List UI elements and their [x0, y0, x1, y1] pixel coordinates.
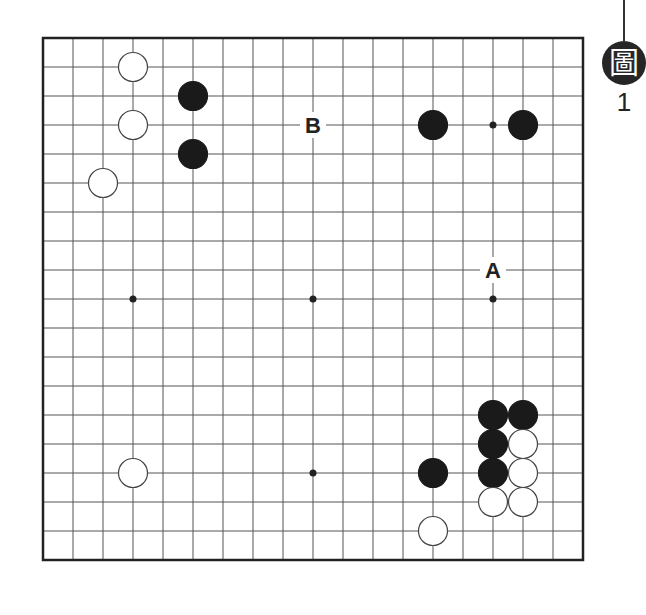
white-stone — [509, 459, 538, 488]
star-point — [310, 296, 317, 303]
black-stone — [179, 82, 208, 111]
white-stone — [119, 53, 148, 82]
black-stone — [509, 401, 538, 430]
white-stone — [509, 488, 538, 517]
white-stone — [479, 488, 508, 517]
white-stone — [509, 430, 538, 459]
star-point — [310, 470, 317, 477]
diagram-number: 1 — [610, 87, 638, 118]
black-stone — [479, 430, 508, 459]
white-stone — [119, 111, 148, 140]
badge-connector-line — [623, 0, 625, 41]
star-point — [490, 296, 497, 303]
point-label-a: A — [485, 258, 501, 283]
white-stone — [419, 517, 448, 546]
star-point — [130, 296, 137, 303]
star-point — [490, 122, 497, 129]
white-stone — [89, 169, 118, 198]
black-stone — [479, 459, 508, 488]
black-stone — [509, 111, 538, 140]
black-stone — [419, 459, 448, 488]
black-stone — [179, 140, 208, 169]
diagram-glyph: 圖 — [602, 41, 646, 85]
black-stone — [419, 111, 448, 140]
diagram-badge-icon: 圖 — [602, 41, 646, 85]
black-stone — [479, 401, 508, 430]
white-stone — [119, 459, 148, 488]
point-label-b: B — [305, 113, 321, 138]
